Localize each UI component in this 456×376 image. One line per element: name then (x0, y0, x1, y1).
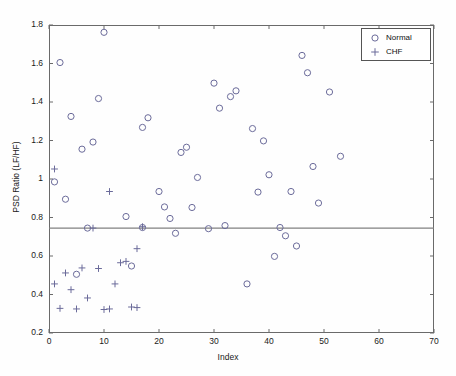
data-point-circle (337, 153, 343, 159)
x-tick-label: 30 (201, 337, 227, 346)
data-point-plus (73, 306, 80, 313)
scatter-plot-figure: 0.20.40.60.811.21.41.61.8 01020304050607… (0, 0, 456, 376)
data-point-plus (79, 265, 86, 272)
data-point-circle (266, 172, 272, 178)
data-point-circle (271, 253, 277, 259)
data-point-plus (134, 304, 141, 311)
data-point-plus (123, 258, 130, 265)
y-tick-label: 1.8 (9, 20, 43, 29)
data-point-plus (95, 265, 102, 272)
data-point-circle (299, 52, 305, 58)
data-point-circle (167, 215, 173, 221)
series-chf (51, 166, 146, 313)
data-point-circle (68, 113, 74, 119)
data-point-plus (51, 166, 58, 173)
data-point-circle (62, 196, 68, 202)
y-axis-label: PSD Ratio (LF/HF) (11, 122, 21, 232)
data-point-circle (216, 105, 222, 111)
data-point-plus (57, 305, 64, 312)
y-tick-label: 0.4 (9, 290, 43, 299)
data-point-circle (244, 281, 250, 287)
data-point-circle (227, 94, 233, 100)
data-point-circle (211, 80, 217, 86)
legend-entry-chf: CHF (362, 45, 432, 59)
data-point-plus (134, 245, 141, 252)
x-tick-label: 10 (91, 337, 117, 346)
data-point-circle (183, 144, 189, 150)
data-point-plus (101, 306, 108, 313)
x-axis-label: Index (0, 352, 456, 362)
data-point-circle (304, 70, 310, 76)
x-tick-label: 20 (146, 337, 172, 346)
x-tick-label: 50 (311, 337, 337, 346)
data-point-plus (117, 259, 124, 266)
data-point-plus (128, 304, 135, 311)
data-point-circle (123, 213, 129, 219)
data-point-circle (260, 138, 266, 144)
data-point-plus (62, 270, 69, 277)
data-point-plus (84, 295, 91, 302)
data-point-plus (106, 188, 113, 195)
data-point-circle (57, 59, 63, 65)
data-point-circle (156, 188, 162, 194)
data-point-circle (255, 189, 261, 195)
data-point-plus (106, 306, 113, 313)
data-point-circle (189, 204, 195, 210)
x-tick-label: 70 (421, 337, 447, 346)
data-point-plus (68, 286, 75, 293)
plus-marker-icon (367, 45, 383, 59)
data-point-circle (73, 271, 79, 277)
data-point-plus (112, 281, 119, 288)
circle-marker-icon (367, 31, 383, 45)
data-point-circle (145, 115, 151, 121)
data-point-circle (139, 124, 145, 130)
series-normal (51, 29, 343, 287)
legend-entry-normal: Normal (362, 31, 432, 45)
data-point-plus (90, 225, 97, 232)
data-point-circle (310, 163, 316, 169)
legend-label-chf: CHF (386, 47, 402, 56)
data-point-circle (249, 125, 255, 131)
data-point-circle (128, 263, 134, 269)
data-point-circle (172, 230, 178, 236)
x-tick-label: 40 (256, 337, 282, 346)
y-tick-label: 1.4 (9, 97, 43, 106)
x-tick-label: 60 (366, 337, 392, 346)
data-point-circle (194, 174, 200, 180)
data-point-circle (233, 88, 239, 94)
x-tick-label: 0 (36, 337, 62, 346)
legend-label-normal: Normal (386, 33, 412, 42)
data-point-circle (326, 89, 332, 95)
data-point-circle (79, 146, 85, 152)
data-point-circle (282, 233, 288, 239)
data-point-circle (161, 204, 167, 210)
data-point-plus (51, 281, 58, 288)
y-tick-label: 1.6 (9, 59, 43, 68)
data-point-circle (101, 29, 107, 35)
y-tick-label: 0.6 (9, 251, 43, 260)
data-point-circle (95, 95, 101, 101)
data-point-circle (90, 139, 96, 145)
data-point-circle (288, 188, 294, 194)
data-point-circle (315, 200, 321, 206)
data-point-circle (293, 243, 299, 249)
legend: Normal CHF (361, 28, 431, 61)
data-point-circle (178, 149, 184, 155)
data-point-circle (51, 179, 57, 185)
y-tick-label: 0.2 (9, 328, 43, 337)
